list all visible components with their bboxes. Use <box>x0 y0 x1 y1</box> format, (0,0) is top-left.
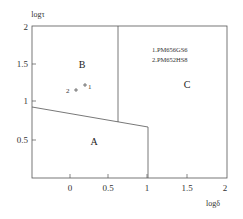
legend-item-2: 2.PM652HS8 <box>152 56 188 63</box>
sloped-boundary-line <box>32 107 148 127</box>
y-axis-title: logτ <box>31 10 45 19</box>
y-axis: 0.5 1 1.5 2 logτ <box>17 10 46 145</box>
data-point-1: 1 <box>83 83 92 91</box>
point-label: 2 <box>66 87 70 95</box>
x-tick-label: 0 <box>68 183 73 193</box>
region-label-b: B <box>79 59 86 70</box>
y-tick-label: 0.5 <box>17 135 29 145</box>
plus-marker-icon <box>74 88 78 92</box>
y-tick-label: 1.5 <box>17 59 29 69</box>
y-tick-label: 1 <box>24 96 29 106</box>
plot-frame <box>32 26 227 178</box>
x-tick-label: 0.5 <box>102 183 114 193</box>
x-tick-label: 2 <box>223 183 228 193</box>
data-point-2: 2 <box>66 87 78 95</box>
x-tick-label: 1 <box>145 183 150 193</box>
plus-marker-icon <box>83 83 87 87</box>
point-label: 1 <box>88 83 92 91</box>
legend-item-1: 1.PM656GS6 <box>152 46 188 53</box>
chart: 0 0.5 1 1.5 2 logδ 0.5 1 1.5 2 logτ A B … <box>0 0 243 219</box>
x-tick-label: 1.5 <box>181 183 193 193</box>
region-label-c: C <box>184 79 191 90</box>
y-tick-label: 2 <box>24 22 29 32</box>
x-axis-title: logδ <box>206 199 220 208</box>
x-axis: 0 0.5 1 1.5 2 logδ <box>68 174 228 208</box>
region-label-a: A <box>90 136 98 147</box>
